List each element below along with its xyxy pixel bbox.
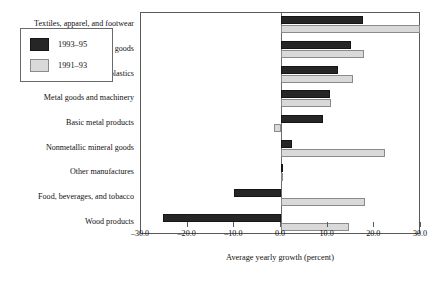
bar-1993-95 (281, 41, 351, 49)
bar-1991-93 (281, 198, 365, 206)
category-label: Nonmetallic mineral goods (0, 143, 134, 152)
bar-1991-93 (281, 50, 364, 58)
bar-1993-95 (234, 189, 281, 197)
plot-area (140, 12, 420, 234)
x-axis-tick-label: 30.0 (400, 229, 440, 238)
x-axis-tick-label: –20.0 (167, 229, 207, 238)
x-axis-tick (327, 222, 328, 227)
x-axis-title: Average yearly growth (percent) (140, 253, 420, 262)
legend-swatch-dark-icon (30, 38, 49, 51)
x-axis-tick (233, 222, 234, 227)
chart-legend: 1993–95 1991–93 (20, 28, 113, 82)
bar-1991-93 (281, 25, 420, 33)
x-axis-tick (420, 222, 421, 227)
x-axis-tick-label: 10.0 (307, 229, 347, 238)
x-axis-tick (140, 222, 141, 227)
category-label: Metal goods and machinery (0, 93, 134, 102)
bar-1993-95 (281, 16, 363, 24)
legend-label-1991-93: 1991–93 (58, 61, 87, 70)
bar-1993-95 (281, 115, 323, 123)
legend-swatch-light-icon (30, 59, 49, 72)
bar-1991-93 (274, 124, 281, 132)
legend-label-1993-95: 1993–95 (58, 40, 87, 49)
x-axis-tick (373, 222, 374, 227)
category-label: Basic metal products (0, 118, 134, 127)
x-axis-tick-label: –10.0 (213, 229, 253, 238)
category-label: Food, beverages, and tobacco (0, 192, 134, 201)
x-axis-tick-label: –30.0 (120, 229, 160, 238)
bar-1991-93 (281, 99, 331, 107)
bar-1993-95 (281, 90, 330, 98)
bar-1991-93 (281, 75, 353, 83)
category-label: Wood products (0, 217, 134, 226)
x-axis-tick-label: 20.0 (353, 229, 393, 238)
bar-1993-95 (281, 164, 283, 172)
plot-inner (141, 13, 419, 233)
legend-entry-1991-93: 1991–93 (30, 59, 87, 72)
x-axis-tick (187, 222, 188, 227)
chart-figure: Textiles, apparel, and footwearPaper and… (0, 0, 445, 297)
x-axis-tick (280, 222, 281, 227)
category-label: Other manufactures (0, 167, 134, 176)
bar-1991-93 (281, 149, 385, 157)
bar-1993-95 (281, 66, 338, 74)
x-axis-tick-label: 0.0 (260, 229, 300, 238)
bar-1993-95 (163, 214, 281, 222)
bar-1991-93 (281, 173, 283, 181)
category-label: Textiles, apparel, and footwear (0, 19, 134, 28)
bar-1993-95 (281, 140, 292, 148)
legend-entry-1993-95: 1993–95 (30, 38, 87, 51)
